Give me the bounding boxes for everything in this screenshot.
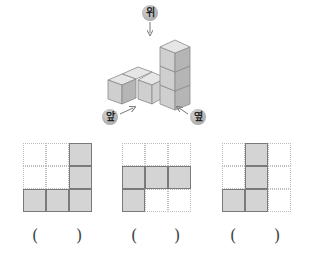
filled-cell xyxy=(122,189,145,212)
filled-cell xyxy=(122,166,145,189)
filled-cell xyxy=(222,189,245,212)
side-view-label: 옆 xyxy=(190,109,206,125)
filled-cell xyxy=(245,189,268,212)
filled-cell xyxy=(145,166,168,189)
empty-cell xyxy=(168,189,191,212)
filled-cell xyxy=(69,166,92,189)
empty-cell xyxy=(23,143,46,166)
answer-close-paren-1: ) xyxy=(76,226,82,245)
top-view-label: 위 xyxy=(142,5,158,21)
answer-blank-2[interactable] xyxy=(143,228,173,246)
empty-cell xyxy=(222,166,245,189)
empty-cell xyxy=(268,143,291,166)
answer-close-paren-3: ) xyxy=(274,226,280,245)
empty-cell xyxy=(268,189,291,212)
filled-cell xyxy=(46,189,69,212)
filled-cell xyxy=(168,166,191,189)
option-grid-3 xyxy=(222,143,291,212)
answer-blank-1[interactable] xyxy=(44,228,74,246)
front-view-label: 앞 xyxy=(102,109,118,125)
option-grid-1 xyxy=(23,143,92,212)
empty-cell xyxy=(222,143,245,166)
answer-blank-3[interactable] xyxy=(242,228,272,246)
filled-cell xyxy=(245,143,268,166)
cube-figure: 위 앞 옆 xyxy=(0,0,320,135)
filled-cell xyxy=(69,143,92,166)
option-grid-2 xyxy=(122,143,191,212)
empty-cell xyxy=(122,143,145,166)
empty-cell xyxy=(46,166,69,189)
answer-open-paren-1: ( xyxy=(32,226,38,245)
front-arrow-icon xyxy=(120,108,133,114)
isometric-cubes xyxy=(0,0,320,135)
filled-cell xyxy=(245,166,268,189)
answer-open-paren-3: ( xyxy=(230,226,236,245)
filled-cell xyxy=(23,189,46,212)
empty-cell xyxy=(46,143,69,166)
filled-cell xyxy=(69,189,92,212)
empty-cell xyxy=(168,143,191,166)
empty-cell xyxy=(145,189,168,212)
empty-cell xyxy=(23,166,46,189)
answer-close-paren-2: ) xyxy=(174,226,180,245)
empty-cell xyxy=(145,143,168,166)
empty-cell xyxy=(268,166,291,189)
side-arrow-icon xyxy=(179,108,188,114)
answer-open-paren-2: ( xyxy=(131,226,137,245)
